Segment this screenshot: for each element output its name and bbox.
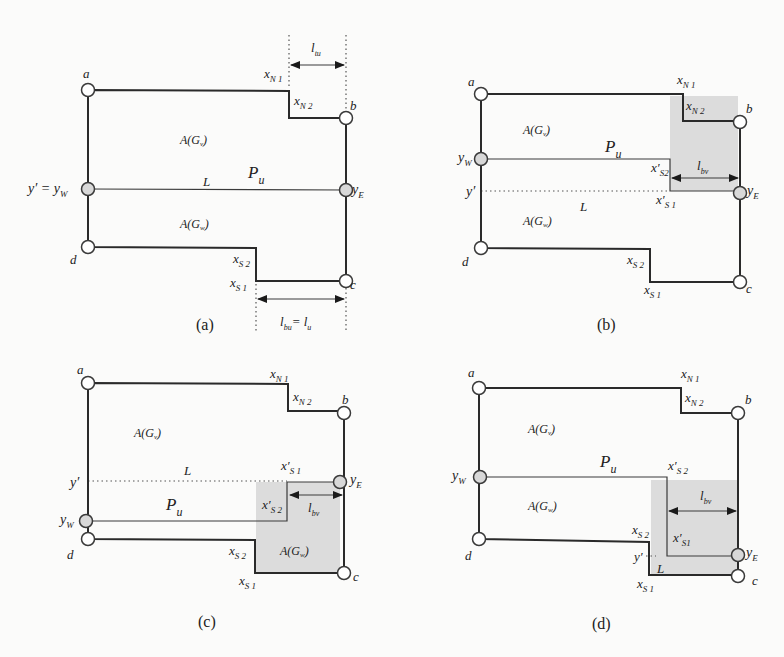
node-d bbox=[82, 533, 95, 546]
label-d: d bbox=[465, 548, 472, 563]
label-xn1: xN 1 bbox=[263, 66, 283, 84]
panel-d: a b c d yW y′ yE A(Gv) A(Gw) Pu L xN 1 x… bbox=[450, 365, 758, 633]
label-xs2: xS 2 bbox=[228, 543, 247, 561]
node-ye bbox=[334, 476, 347, 489]
label-agw: A(Gw) bbox=[279, 544, 309, 559]
label-pu: Pu bbox=[599, 452, 616, 476]
label-c: c bbox=[350, 277, 356, 292]
caption-a: (a) bbox=[196, 316, 214, 334]
node-yw bbox=[474, 471, 487, 484]
label-xn1: xN 1 bbox=[676, 72, 696, 90]
node-c bbox=[338, 567, 351, 580]
node-d bbox=[82, 241, 95, 254]
label-yprime: y′ bbox=[68, 475, 80, 490]
node-b bbox=[338, 407, 351, 420]
label-agv: A(Gv) bbox=[522, 123, 550, 138]
label-l: L bbox=[183, 463, 191, 478]
node-a bbox=[82, 377, 95, 390]
label-xn2: xN 2 bbox=[292, 389, 312, 407]
shaded-region bbox=[256, 482, 340, 573]
label-b: b bbox=[350, 98, 357, 113]
label-b: b bbox=[746, 101, 753, 116]
label-xs2-prime: x′S2 bbox=[650, 160, 669, 178]
label-ye: yE bbox=[745, 183, 759, 201]
node-b bbox=[340, 112, 353, 125]
node-d bbox=[473, 533, 486, 546]
label-ltu: ltu bbox=[311, 40, 321, 58]
label-c: c bbox=[746, 281, 752, 296]
label-yw: yW bbox=[58, 512, 75, 530]
node-d bbox=[475, 242, 488, 255]
label-yprime-yw: y′ = yW bbox=[26, 181, 69, 199]
label-b: b bbox=[342, 392, 349, 407]
label-xs1: xS 1 bbox=[238, 573, 256, 591]
node-ye bbox=[734, 187, 747, 200]
node-yw bbox=[82, 183, 95, 196]
node-b bbox=[734, 116, 747, 129]
label-ye: yE bbox=[744, 545, 758, 563]
label-pu: Pu bbox=[165, 495, 182, 519]
line-l bbox=[88, 189, 346, 190]
region-outline bbox=[88, 90, 346, 281]
label-xs1: xS 1 bbox=[229, 275, 247, 293]
node-a bbox=[475, 88, 488, 101]
panel-c: a b c d yW y′ yE A(Gv) A(Gw) Pu L xN 1 x… bbox=[58, 362, 362, 631]
label-ye: yE bbox=[350, 182, 364, 200]
label-xn1: xN 1 bbox=[269, 366, 289, 384]
node-a bbox=[473, 382, 486, 395]
label-b: b bbox=[745, 392, 752, 407]
label-yprime: y′ bbox=[632, 549, 643, 564]
label-pu: Pu bbox=[247, 163, 264, 187]
label-xs2: xS 2 bbox=[631, 522, 650, 540]
label-agw: A(Gw) bbox=[179, 217, 209, 232]
label-l: L bbox=[202, 174, 210, 189]
label-a: a bbox=[468, 365, 475, 380]
label-l: L bbox=[579, 199, 587, 214]
panel-b: a b c d yW y′ yE A(Gv) A(Gw) Pu L xN 1 x… bbox=[456, 72, 759, 334]
node-a bbox=[82, 84, 95, 97]
label-ye: yE bbox=[348, 472, 362, 490]
label-yw: yW bbox=[450, 468, 467, 486]
label-agw: A(Gw) bbox=[522, 214, 552, 229]
label-agw: A(Gw) bbox=[527, 499, 557, 514]
label-d: d bbox=[70, 252, 77, 267]
label-xs1: xS 1 bbox=[643, 282, 661, 300]
label-pu: Pu bbox=[604, 137, 621, 161]
caption-d: (d) bbox=[592, 615, 611, 633]
label-lbu-eq-lu: lbu= lu bbox=[280, 314, 311, 332]
node-c bbox=[734, 276, 747, 289]
label-c: c bbox=[752, 573, 758, 588]
label-a: a bbox=[468, 74, 475, 89]
label-agv: A(Gv) bbox=[179, 133, 207, 148]
label-xs1-prime: x′S 1 bbox=[655, 192, 676, 210]
label-d: d bbox=[462, 254, 469, 269]
panel-a: a b c d y′ = yW yE A(Gv) A(Gw) Pu L xN 1… bbox=[26, 35, 364, 334]
label-d: d bbox=[67, 547, 74, 562]
label-a: a bbox=[77, 362, 84, 377]
caption-c: (c) bbox=[198, 613, 216, 631]
label-agv: A(Gv) bbox=[527, 422, 555, 437]
label-xs2-prime: x′S 2 bbox=[667, 458, 688, 476]
label-agv: A(Gv) bbox=[133, 426, 161, 441]
label-xs2: xS 2 bbox=[232, 251, 251, 269]
label-xs2: xS 2 bbox=[626, 252, 645, 270]
node-yw bbox=[475, 153, 488, 166]
node-ye bbox=[732, 549, 745, 562]
node-b bbox=[732, 407, 745, 420]
label-a: a bbox=[83, 66, 90, 81]
node-c bbox=[732, 570, 745, 583]
label-xn2: xN 2 bbox=[293, 93, 313, 111]
label-l: L bbox=[656, 561, 664, 576]
label-xn2: xN 2 bbox=[684, 390, 704, 408]
node-ye bbox=[340, 184, 353, 197]
label-xs1-prime: x′S 1 bbox=[280, 458, 301, 476]
label-yprime: y′ bbox=[464, 184, 476, 199]
figure-canvas: a b c d y′ = yW yE A(Gv) A(Gw) Pu L xN 1… bbox=[0, 0, 784, 657]
label-xn1: xN 1 bbox=[680, 366, 700, 384]
caption-b: (b) bbox=[597, 316, 616, 334]
label-xs1: xS 1 bbox=[636, 576, 654, 594]
label-c: c bbox=[353, 569, 359, 584]
label-yw: yW bbox=[456, 150, 473, 168]
node-yw bbox=[80, 515, 93, 528]
